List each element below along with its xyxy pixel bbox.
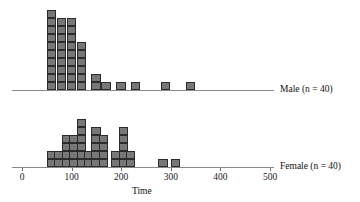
stack-cell	[119, 143, 128, 151]
stack-column	[67, 18, 76, 90]
stack-cell	[77, 58, 86, 66]
x-tick	[220, 168, 221, 171]
stack-column	[99, 135, 108, 167]
stack-cell	[47, 26, 56, 34]
stack-cell	[171, 159, 180, 167]
stack-cell	[77, 135, 86, 143]
stack-cell	[47, 82, 56, 90]
stack-cell	[57, 82, 66, 90]
stack-cell	[57, 74, 66, 82]
x-tick-label: 200	[106, 172, 136, 183]
stack-cell	[126, 151, 135, 159]
stack-cell	[99, 159, 108, 167]
x-tick	[121, 168, 122, 171]
stack-cell	[99, 143, 108, 151]
x-tick-label: 500	[255, 172, 285, 183]
stack-cell	[77, 66, 86, 74]
dotplot-figure: Male (n = 40) Female (n = 40) 0100200300…	[0, 0, 360, 202]
stack-column	[47, 10, 56, 90]
stack-cell	[57, 58, 66, 66]
stack-cell	[126, 159, 135, 167]
stack-cell	[91, 74, 100, 82]
stack-column	[101, 82, 110, 90]
stack-cell	[57, 42, 66, 50]
x-tick-label: 0	[7, 172, 37, 183]
female-series-label: Female (n = 40)	[280, 161, 341, 171]
x-tick-label: 300	[156, 172, 186, 183]
stack-cell	[99, 135, 108, 143]
stack-cell	[57, 18, 66, 26]
stack-cell	[47, 10, 56, 18]
stack-cell	[57, 66, 66, 74]
stack-column	[91, 74, 100, 90]
stack-cell	[67, 34, 76, 42]
stack-column	[77, 42, 86, 90]
stack-cell	[77, 50, 86, 58]
stack-cell	[186, 82, 195, 90]
stack-cell	[47, 50, 56, 58]
stack-column	[126, 151, 135, 167]
stack-cell	[91, 82, 100, 90]
stack-cell	[77, 82, 86, 90]
stack-cell	[119, 127, 128, 135]
male-axis-line	[12, 90, 274, 91]
x-tick	[72, 168, 73, 171]
stack-cell	[67, 26, 76, 34]
x-tick-label: 100	[57, 172, 87, 183]
female-axis-line	[12, 167, 274, 168]
stack-cell	[67, 58, 76, 66]
stack-cell	[77, 143, 86, 151]
stack-cell	[67, 42, 76, 50]
stack-cell	[116, 82, 125, 90]
stack-cell	[158, 159, 167, 167]
stack-cell	[67, 18, 76, 26]
stack-cell	[47, 18, 56, 26]
stack-column	[57, 18, 66, 90]
stack-cell	[101, 82, 110, 90]
stack-cell	[77, 127, 86, 135]
stack-cell	[67, 50, 76, 58]
x-tick	[22, 168, 23, 171]
stack-cell	[131, 82, 140, 90]
stack-cell	[77, 42, 86, 50]
stack-cell	[47, 66, 56, 74]
stack-cell	[67, 82, 76, 90]
x-tick	[270, 168, 271, 171]
stack-cell	[57, 50, 66, 58]
stack-cell	[77, 119, 86, 127]
stack-cell	[161, 82, 170, 90]
stack-cell	[67, 66, 76, 74]
stack-cell	[91, 127, 100, 135]
stack-cell	[119, 135, 128, 143]
stack-cell	[77, 74, 86, 82]
stack-cell	[47, 74, 56, 82]
x-tick	[171, 168, 172, 171]
stack-column	[131, 82, 140, 90]
stack-cell	[67, 74, 76, 82]
stack-cell	[47, 34, 56, 42]
stack-column	[186, 82, 195, 90]
stack-column	[158, 159, 167, 167]
stack-column	[161, 82, 170, 90]
x-tick-label: 400	[205, 172, 235, 183]
stack-cell	[47, 58, 56, 66]
stack-cell	[99, 151, 108, 159]
stack-column	[116, 82, 125, 90]
x-axis-title: Time	[132, 186, 152, 196]
stack-column	[171, 159, 180, 167]
stack-cell	[47, 42, 56, 50]
male-series-label: Male (n = 40)	[280, 84, 333, 94]
stack-cell	[57, 26, 66, 34]
stack-cell	[57, 34, 66, 42]
